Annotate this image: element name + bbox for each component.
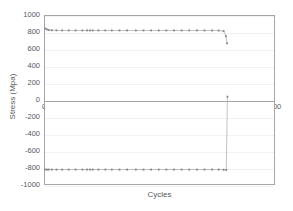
series-marker: [211, 30, 213, 32]
y-axis-title-wrapper: Stress (Mpa): [0, 0, 1, 1]
series-marker: [104, 30, 106, 32]
series-marker: [75, 169, 77, 171]
series-marker: [119, 169, 121, 171]
data-series: [44, 96, 228, 171]
series-marker: [135, 30, 137, 32]
series-marker: [225, 35, 227, 37]
x-axis-title: Cycles: [44, 190, 275, 199]
series-marker: [61, 169, 63, 171]
series-marker: [44, 169, 46, 171]
series-marker: [56, 29, 58, 31]
series-marker: [86, 30, 88, 32]
stress-vs-cycles-chart: -1000-800-600-400-20002004006008001000 0…: [0, 0, 293, 211]
series-marker: [104, 169, 106, 171]
series-marker: [56, 169, 58, 171]
series-marker: [111, 30, 113, 32]
series-marker: [226, 42, 228, 44]
series-marker: [82, 169, 84, 171]
data-series-layer: [45, 16, 274, 184]
series-marker: [61, 30, 63, 32]
series-marker: [44, 28, 46, 30]
series-marker: [223, 30, 225, 32]
series-marker: [196, 30, 198, 32]
series-marker: [68, 30, 70, 32]
series-marker: [92, 169, 94, 171]
series-marker: [126, 169, 128, 171]
series-marker: [218, 30, 220, 32]
series-marker: [98, 169, 100, 171]
series-marker: [126, 30, 128, 32]
series-marker: [119, 30, 121, 32]
series-marker: [51, 29, 53, 31]
series-marker: [165, 30, 167, 32]
series-marker: [48, 29, 50, 31]
series-marker: [204, 30, 206, 32]
y-axis-title: Stress (Mpa): [8, 47, 17, 147]
series-marker: [181, 169, 183, 171]
series-marker: [173, 169, 175, 171]
series-line: [45, 97, 227, 170]
series-marker: [173, 30, 175, 32]
series-marker: [68, 169, 70, 171]
gridline: [45, 186, 274, 187]
series-marker: [181, 30, 183, 32]
series-marker: [86, 169, 88, 171]
series-marker: [135, 169, 137, 171]
series-marker: [196, 169, 198, 171]
series-marker: [98, 30, 100, 32]
series-marker: [143, 30, 145, 32]
series-marker: [204, 169, 206, 171]
series-marker: [89, 169, 91, 171]
series-marker: [223, 169, 225, 171]
series-marker: [89, 30, 91, 32]
series-marker: [158, 30, 160, 32]
series-marker: [48, 169, 50, 171]
series-marker: [211, 169, 213, 171]
series-marker: [51, 169, 53, 171]
series-marker: [165, 169, 167, 171]
data-series: [44, 28, 227, 45]
series-marker: [188, 169, 190, 171]
series-marker: [92, 30, 94, 32]
series-marker: [218, 169, 220, 171]
series-marker: [111, 169, 113, 171]
plot-area: [44, 15, 275, 185]
series-marker: [150, 30, 152, 32]
series-marker: [46, 29, 48, 31]
series-marker: [225, 169, 227, 171]
series-marker: [227, 96, 229, 98]
series-marker: [158, 169, 160, 171]
series-marker: [188, 30, 190, 32]
series-marker: [75, 30, 77, 32]
series-marker: [150, 169, 152, 171]
series-marker: [143, 169, 145, 171]
series-marker: [82, 30, 84, 32]
series-marker: [46, 169, 48, 171]
